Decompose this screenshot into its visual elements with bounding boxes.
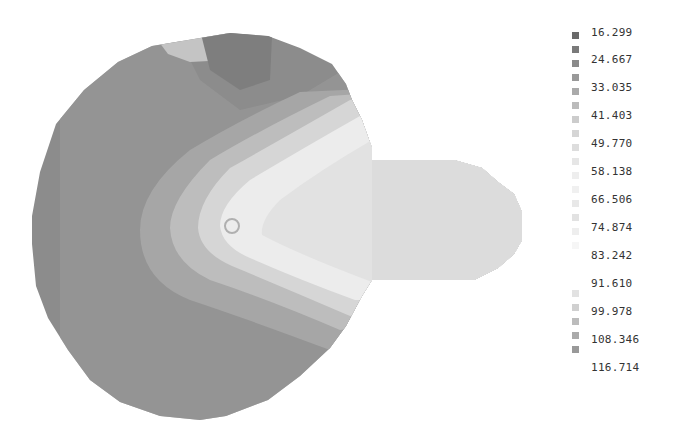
contour-plot	[0, 0, 560, 442]
legend-swatch	[572, 304, 579, 311]
legend-swatch	[572, 46, 579, 53]
legend-label: 58.138	[591, 165, 633, 178]
legend-label: 108.346	[591, 333, 639, 346]
legend-swatch	[572, 290, 579, 297]
legend-swatch	[572, 102, 579, 109]
legend-swatch	[572, 200, 579, 207]
legend-swatch	[572, 88, 579, 95]
legend-swatch	[572, 32, 579, 39]
legend-label: 24.667	[591, 53, 633, 66]
legend-swatch	[572, 242, 579, 249]
legend-label: 33.035	[591, 81, 633, 94]
legend-label: 49.770	[591, 137, 633, 150]
legend-swatch	[572, 158, 579, 165]
legend-swatch	[572, 346, 579, 353]
legend-label: 66.506	[591, 193, 633, 206]
legend-swatch	[572, 116, 579, 123]
legend-label: 116.714	[591, 361, 639, 374]
legend-label: 41.403	[591, 109, 633, 122]
legend-swatch	[572, 172, 579, 179]
legend-swatch	[572, 214, 579, 221]
legend-label: 74.874	[591, 221, 633, 234]
legend-swatch	[572, 60, 579, 67]
legend-swatch	[572, 186, 579, 193]
legend-label: 16.299	[591, 26, 633, 39]
legend-swatch	[572, 332, 579, 339]
legend-label: 83.242	[591, 249, 633, 262]
legend-label: 91.610	[591, 277, 633, 290]
legend-swatch	[572, 130, 579, 137]
legend-swatch	[572, 228, 579, 235]
legend-swatch	[572, 74, 579, 81]
legend-swatch	[572, 318, 579, 325]
legend-swatch	[572, 144, 579, 151]
legend-label: 99.978	[591, 305, 633, 318]
